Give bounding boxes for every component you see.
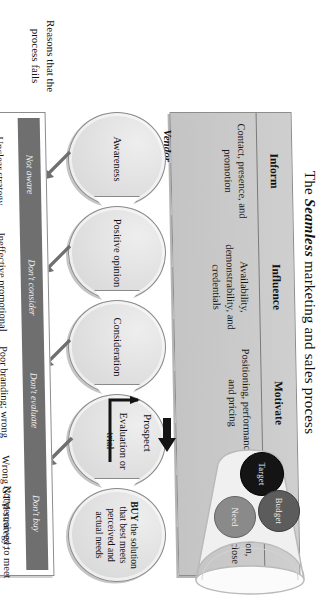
prospect-label: Prospect — [142, 388, 154, 478]
vendor-column-influence-body: Availability, demonstrability, and crede… — [173, 229, 261, 345]
vendor-column-inform-body: Contact, presence, and promotion — [171, 113, 259, 229]
title-suffix: marketing and sales process — [302, 257, 318, 434]
reasons-heading: Reasons that the process fails — [28, 4, 58, 108]
title-prefix: The — [302, 171, 318, 199]
funnel-circle-budget: Budget — [258, 490, 300, 532]
buyer-last-reason: Not perceived to meet needs at the right… — [0, 478, 14, 586]
stage-label-consideration: Consideration — [110, 309, 123, 386]
buyer-reason-1: Unclear strategy, positioning, and targe… — [0, 117, 15, 227]
vendor-column-influence-head: Influence — [259, 264, 294, 310]
stage-oval-positive-opinion: Positive opinion — [68, 206, 166, 300]
buyer-reason-2: Ineffective promotional methods and mess… — [0, 227, 17, 337]
prospect-arrow-icon — [158, 418, 176, 452]
buyer-status-dont-evaluate: Don't evaluate — [22, 344, 46, 457]
diagram-canvas: The Seamless marketing and sales process… — [0, 0, 326, 605]
buyer-status-dont-consider: Don't consider — [20, 231, 44, 344]
vendor-column-inform: Inform Contact, presence, and promotion — [171, 113, 293, 229]
stage-label-buy: BUY the solution that best meets perceiv… — [94, 489, 141, 581]
prospect-axis-icon — [80, 396, 140, 466]
stage-flow: Awareness Positive opinion Consideration… — [62, 112, 166, 582]
prospect-funnel: Target Budget Need — [186, 430, 314, 598]
buyer-status-strip: Not aware Don't consider Don't evaluate … — [18, 118, 49, 570]
stage-oval-awareness: Awareness — [68, 112, 166, 206]
vendor-column-influence: Influence Availability, demonstrability,… — [173, 229, 295, 345]
title-emphasis: Seamless — [302, 199, 318, 257]
buyer-reason-3: Poor branding; wrong pricing; no competi… — [0, 337, 19, 447]
buyer-status-dont-buy: Don't buy — [24, 457, 48, 570]
vendor-column-motivate-head: Motivate — [262, 381, 297, 425]
funnel-circle-need: Need — [214, 496, 256, 538]
stage-oval-buy: BUY the solution that best meets perceiv… — [68, 488, 166, 582]
stage-label-positive-opinion: Positive opinion — [110, 210, 123, 297]
stage-label-awareness: Awareness — [110, 127, 123, 190]
stage-oval-consideration: Consideration — [68, 300, 166, 394]
buyer-status-not-aware: Not aware — [18, 118, 42, 231]
vendor-column-inform-head: Inform — [257, 153, 292, 188]
